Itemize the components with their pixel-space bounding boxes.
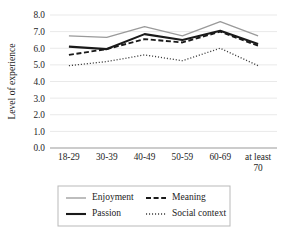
y-axis-tick-label: 7.0 <box>33 27 45 37</box>
legend-label-passion: Passion <box>92 208 121 218</box>
series-line-social-context <box>69 48 258 65</box>
legend-label-social-context: Social context <box>172 208 226 218</box>
legend-label-enjoyment: Enjoyment <box>92 192 134 202</box>
series-line-passion <box>69 31 258 49</box>
x-axis-tick-label: at least <box>245 152 271 162</box>
x-axis-tick-label: 40-49 <box>134 152 156 162</box>
x-axis-tick-label: 18-29 <box>58 152 80 162</box>
y-axis-tick-label: 4.0 <box>33 77 45 87</box>
x-axis-tick-label-cont: 70 <box>253 163 263 173</box>
y-axis-tick-label: 0.0 <box>33 143 45 153</box>
chart-figure: 0.01.02.03.04.05.06.07.08.0Level of expe… <box>0 0 287 232</box>
x-axis-tick-label: 60-69 <box>209 152 231 162</box>
y-axis-tick-label: 2.0 <box>33 110 45 120</box>
y-axis-tick-label: 5.0 <box>33 60 45 70</box>
legend-label-meaning: Meaning <box>172 192 206 202</box>
y-axis-tick-label: 6.0 <box>33 44 45 54</box>
y-axis-tick-label: 8.0 <box>33 10 45 20</box>
line-chart: 0.01.02.03.04.05.06.07.08.0Level of expe… <box>0 0 287 232</box>
y-axis-title: Level of experience <box>6 43 17 119</box>
x-axis-tick-label: 30-39 <box>96 152 118 162</box>
y-axis-tick-label: 1.0 <box>33 127 45 137</box>
y-axis-tick-label: 3.0 <box>33 94 45 104</box>
x-axis-tick-label: 50-59 <box>172 152 194 162</box>
